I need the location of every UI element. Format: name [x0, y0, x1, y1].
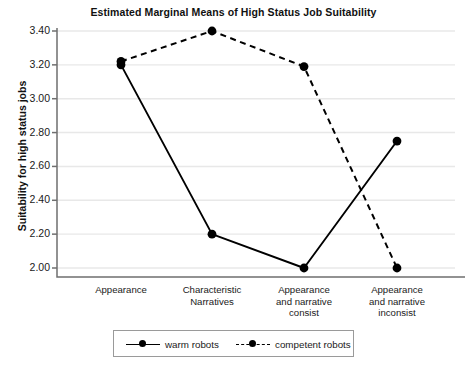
data-point: [208, 230, 217, 239]
plot-area: [0, 0, 467, 371]
data-point: [300, 62, 309, 71]
data-point: [208, 27, 217, 36]
data-point: [393, 264, 402, 273]
legend-label: warm robots: [165, 339, 219, 350]
legend-label: competent robots: [275, 339, 351, 350]
legend-line-solid-icon: [126, 339, 160, 349]
chart-legend: warm robots competent robots: [113, 330, 354, 357]
data-point: [393, 137, 402, 146]
legend-item-warm-robots: warm robots: [126, 337, 219, 351]
legend-item-competent-robots: competent robots: [236, 337, 351, 351]
legend-line-dashed-icon: [236, 339, 270, 349]
data-point: [300, 264, 309, 273]
series-line-competent-robots: [121, 31, 397, 268]
chart-container: Estimated Marginal Means of High Status …: [0, 0, 467, 371]
data-point: [117, 57, 126, 66]
